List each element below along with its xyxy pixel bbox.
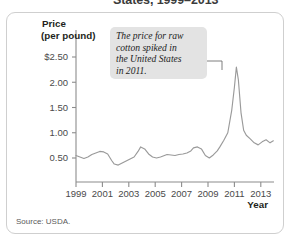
y-tick-label: 2.00 (50, 77, 69, 88)
callout-line: cotton spiked in (116, 42, 177, 53)
x-tick-label: 2003 (118, 188, 139, 199)
y-axis-title-line1: Price (42, 18, 67, 29)
x-tick-label: 2011 (224, 188, 244, 199)
callout-line: The price for raw (116, 30, 184, 41)
x-tick-group (76, 182, 261, 187)
x-tick-label: 2005 (145, 188, 166, 199)
x-tick-label: 1999 (65, 188, 86, 199)
x-tick-label-group: 19992001200320052007200920112013 (65, 188, 271, 199)
y-tick-label-group: $2.502.001.501.000.50 (44, 51, 68, 163)
chart-svg: $2.502.001.501.000.50 199920012003200520… (0, 0, 291, 243)
callout-line: in 2011. (116, 65, 147, 76)
x-tick-label: 2001 (92, 188, 113, 199)
data-line-cotton-price (76, 67, 273, 165)
y-tick-label: 0.50 (50, 152, 69, 163)
x-axis-title: Year (247, 199, 268, 210)
callout-leader-line (205, 61, 222, 70)
y-tick-label: 1.00 (50, 127, 69, 138)
source-note: Source: USDA. (16, 217, 70, 226)
x-tick-label: 2013 (250, 188, 271, 199)
figure-container: States, 1999–2013 $2.502.001.501.000.50 … (0, 0, 291, 243)
x-tick-label: 2007 (171, 188, 192, 199)
callout-line: the United States (116, 53, 182, 64)
y-axis-title-line2: (per pound) (41, 30, 95, 41)
plot-wrapper: $2.502.001.501.000.50 199920012003200520… (0, 0, 291, 243)
x-tick-label: 2009 (197, 188, 218, 199)
y-tick-label: 1.50 (50, 102, 69, 113)
y-tick-group (72, 57, 76, 158)
y-tick-label: $2.50 (44, 51, 68, 62)
